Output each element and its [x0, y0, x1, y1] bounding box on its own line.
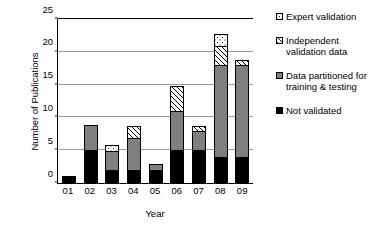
legend-swatch-icon [276, 13, 283, 20]
y-axis-tick-label: 20 [42, 38, 53, 48]
legend-label: Independent validation data [286, 35, 347, 57]
bar-group [58, 19, 253, 183]
bar-slot [58, 19, 80, 183]
plot-area: 0510152025 [57, 19, 253, 184]
legend-item[interactable]: Data partitioned for training & testing [276, 70, 384, 92]
stacked-bar[interactable] [105, 145, 119, 183]
bar-segment [214, 65, 228, 157]
stacked-bar[interactable] [149, 164, 163, 183]
x-axis-tick-label: 04 [122, 186, 144, 196]
x-axis-tick-label: 03 [101, 186, 123, 196]
x-axis-tick-label: 09 [231, 186, 253, 196]
legend-item[interactable]: Not validated [276, 105, 384, 116]
x-axis-title: Year [57, 208, 253, 219]
x-axis-tick-label: 05 [144, 186, 166, 196]
y-axis-tick-label: 5 [48, 136, 53, 146]
bar-segment [84, 125, 98, 151]
y-axis-title: Number of Publications [29, 22, 40, 182]
bar-segment [170, 150, 184, 183]
legend-label: Data partitioned for training & testing [286, 70, 367, 92]
stacked-bar[interactable] [84, 125, 98, 183]
x-axis-tick-label: 08 [209, 186, 231, 196]
x-axis-tick-label: 07 [188, 186, 210, 196]
bar-segment [170, 111, 184, 151]
legend: Expert validationIndependent validation … [276, 11, 384, 129]
bar-segment [105, 151, 119, 171]
x-axis-tick-label: 01 [57, 186, 79, 196]
y-axis-tick-label: 0 [48, 169, 53, 179]
bar-segment [214, 46, 228, 66]
bar-segment [192, 150, 206, 183]
stacked-bar[interactable] [127, 126, 141, 183]
bar-slot [80, 19, 102, 183]
bar-segment [84, 150, 98, 183]
bar-slot [145, 19, 167, 183]
bar-segment [192, 131, 206, 151]
legend-label: Expert validation [286, 11, 356, 22]
bar-segment [127, 170, 141, 183]
legend-label: Not validated [286, 105, 341, 116]
bar-slot [210, 19, 232, 183]
stacked-bar[interactable] [235, 60, 249, 183]
x-axis-tick-labels: 010203040506070809 [57, 186, 253, 196]
legend-item[interactable]: Independent validation data [276, 35, 384, 57]
bar-slot [123, 19, 145, 183]
bar-slot [101, 19, 123, 183]
bar-slot [166, 19, 188, 183]
legend-swatch-icon [276, 107, 283, 114]
stacked-bar[interactable] [214, 34, 228, 183]
bar-segment [214, 157, 228, 183]
bar-segment [105, 170, 119, 183]
x-axis-tick-label: 06 [166, 186, 188, 196]
bar-slot [188, 19, 210, 183]
x-axis-tick-label: 02 [79, 186, 101, 196]
chart-figure: Number of Publications 0510152025 010203… [0, 0, 384, 244]
legend-item[interactable]: Expert validation [276, 11, 384, 22]
y-axis-tick-label: 15 [42, 70, 53, 80]
bar-slot [231, 19, 253, 183]
bar-segment [170, 86, 184, 112]
legend-swatch-icon [276, 72, 283, 79]
bar-segment [235, 157, 249, 183]
bar-segment [149, 170, 163, 183]
y-axis-tick-label: 10 [42, 103, 53, 113]
bar-segment [62, 176, 76, 183]
stacked-bar[interactable] [62, 176, 76, 183]
stacked-bar[interactable] [170, 86, 184, 183]
stacked-bar[interactable] [192, 126, 206, 183]
bar-segment [235, 65, 249, 157]
y-axis-tick-label: 25 [42, 5, 53, 15]
bar-segment [127, 138, 141, 171]
legend-swatch-icon [276, 37, 283, 44]
